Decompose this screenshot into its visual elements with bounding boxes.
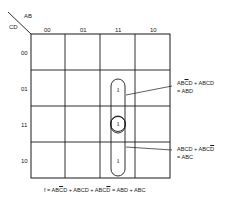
row-variable-label: CD	[9, 24, 18, 31]
column-variable-label: AB	[24, 13, 32, 20]
leader-line-top	[126, 86, 172, 95]
cell-r10-c11: 1	[114, 157, 122, 165]
annotation-top-line1: ABCD + ABCD	[177, 80, 214, 87]
column-header-10: 10	[150, 27, 157, 34]
row-header-11: 11	[21, 122, 27, 129]
leader-line-bottom	[126, 147, 172, 150]
column-header-01: 01	[80, 27, 87, 34]
column-header-11: 11	[115, 27, 121, 34]
annotation-top-text: D + ABCD	[189, 80, 215, 86]
annotation-bottom-line2: = ABC	[177, 154, 193, 161]
kmap-graphics	[0, 0, 228, 201]
annotation-bottom-line1: ABCD + ABCD	[177, 146, 214, 153]
row-header-01: 01	[21, 86, 28, 93]
annotation-bottom-overbar: D	[210, 146, 214, 152]
column-header-00: 00	[44, 27, 51, 34]
row-header-10: 10	[21, 158, 28, 165]
cell-r01-c11: 1	[114, 86, 122, 94]
equation-part: f = AB	[44, 187, 59, 193]
equation-part: = ABD + ABC	[110, 187, 145, 193]
annotation-bottom-text: ABCD + ABC	[177, 146, 210, 152]
annotation-top-line2: = ABD	[177, 88, 193, 95]
row-header-00: 00	[21, 50, 28, 57]
boolean-equation: f = ABCD + ABCD + ABCD = ABD + ABC	[44, 187, 146, 194]
cell-r11-c11: 1	[114, 120, 122, 128]
equation-part: D + ABCD + ABC	[63, 187, 106, 193]
